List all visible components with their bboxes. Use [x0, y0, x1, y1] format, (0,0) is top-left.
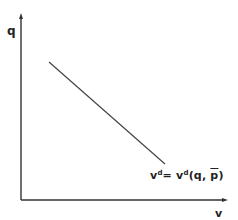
curve-label-args-open: (q,	[189, 169, 211, 182]
diagram-canvas	[0, 0, 238, 220]
curve-label-args-close: )	[218, 169, 223, 182]
curve-label-eq: =	[163, 169, 172, 182]
y-axis-arrow-icon	[19, 13, 23, 19]
x-axis-arrow-icon	[222, 198, 228, 202]
x-axis-label: v	[215, 208, 222, 219]
demand-curve-line	[49, 62, 165, 164]
curve-label: vd= vd(q, p)	[150, 170, 224, 181]
y-axis-label: q	[7, 25, 16, 37]
